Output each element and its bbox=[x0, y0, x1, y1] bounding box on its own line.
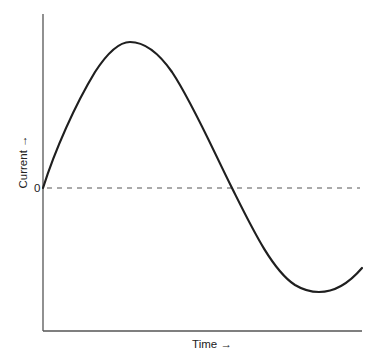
zero-tick-label: 0 bbox=[34, 182, 40, 194]
current-waveform bbox=[43, 42, 362, 292]
current-vs-time-chart: 0 Current → Time → bbox=[0, 0, 379, 364]
y-axis-label: Current → bbox=[17, 135, 29, 188]
x-axis-label: Time → bbox=[192, 338, 232, 350]
